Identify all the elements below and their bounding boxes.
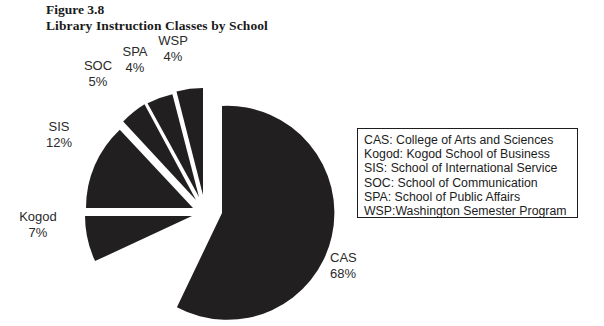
slice-label-kogod-name: Kogod bbox=[19, 209, 57, 224]
slice-label-soc: SOC 5% bbox=[80, 58, 116, 89]
slice-label-kogod-pct: 7% bbox=[10, 225, 66, 241]
slice-label-wsp-name: WSP bbox=[158, 33, 188, 48]
slice-label-soc-pct: 5% bbox=[80, 74, 116, 90]
slice-label-cas: CAS 68% bbox=[330, 250, 366, 281]
legend-row-kogod: Kogod: Kogod School of Business bbox=[364, 147, 577, 161]
slice-label-kogod: Kogod 7% bbox=[10, 209, 66, 240]
slice-label-wsp-pct: 4% bbox=[156, 49, 190, 65]
figure-page: Figure 3.8 Library Instruction Classes b… bbox=[0, 0, 604, 326]
slice-label-spa-pct: 4% bbox=[118, 60, 152, 76]
legend-row-soc: SOC: School of Communication bbox=[364, 176, 577, 190]
legend-row-cas: CAS: College of Arts and Sciences bbox=[364, 133, 577, 147]
slice-label-wsp: WSP 4% bbox=[156, 33, 190, 64]
slice-label-cas-name: CAS bbox=[330, 250, 357, 265]
legend-row-sis: SIS: School of International Service bbox=[364, 161, 577, 175]
slice-label-spa: SPA 4% bbox=[118, 44, 152, 75]
slice-label-cas-pct: 68% bbox=[330, 266, 366, 282]
slice-label-sis-pct: 12% bbox=[42, 135, 76, 151]
legend: CAS: College of Arts and Sciences Kogod:… bbox=[357, 128, 578, 218]
slice-label-sis-name: SIS bbox=[49, 119, 70, 134]
legend-row-spa: SPA: School of Public Affairs bbox=[364, 190, 577, 204]
legend-row-wsp: WSP:Washington Semester Program bbox=[364, 204, 577, 218]
pie-slice-kogod[interactable] bbox=[85, 216, 192, 261]
slice-label-sis: SIS 12% bbox=[42, 119, 76, 150]
pie-slices bbox=[85, 88, 334, 320]
slice-label-spa-name: SPA bbox=[122, 44, 147, 59]
slice-label-soc-name: SOC bbox=[84, 58, 112, 73]
